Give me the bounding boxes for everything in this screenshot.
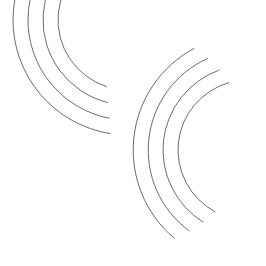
arc-figure-svg <box>0 0 266 266</box>
figure-background <box>0 0 266 266</box>
arc-figure-canvas <box>0 0 266 266</box>
